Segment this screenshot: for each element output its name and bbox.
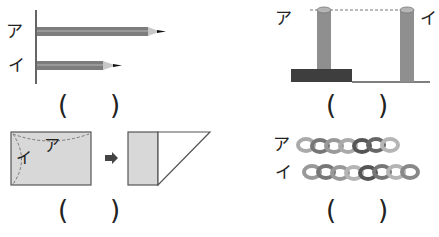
paper-answer-open: (	[58, 197, 68, 223]
pencil-label-a: ア	[6, 23, 23, 40]
paper-label-b: イ	[16, 149, 32, 166]
paper-label-a: ア	[44, 137, 60, 154]
pencil-answer-close: )	[110, 92, 120, 118]
folded-square	[128, 132, 158, 185]
ring-label-b: イ	[275, 164, 292, 181]
pole-b	[400, 7, 414, 82]
pole-a	[317, 7, 331, 69]
pencil-label-b: イ	[8, 57, 25, 74]
ring-answer-close: )	[378, 197, 388, 223]
paper-panel	[11, 132, 210, 185]
ring-panel	[298, 139, 418, 179]
ring-answer-box[interactable]	[338, 197, 376, 225]
pencil-a	[37, 27, 166, 36]
pole-answer-open: (	[326, 92, 336, 118]
ring-answer-open: (	[326, 197, 336, 223]
pencil-b	[37, 61, 122, 70]
pencil-answer-open: (	[58, 92, 68, 118]
pole-answer-box[interactable]	[338, 92, 376, 120]
paper-answer-close: )	[110, 197, 120, 223]
folded-triangle	[158, 132, 210, 185]
ring-chain-a	[298, 139, 398, 152]
pole-label-b: イ	[420, 10, 437, 27]
pencil-panel	[36, 10, 166, 84]
arrow-right-icon	[105, 152, 118, 164]
pole-answer-close: )	[378, 92, 388, 118]
block	[291, 69, 352, 82]
pole-panel	[291, 7, 430, 82]
pencil-answer-box[interactable]	[70, 92, 108, 120]
paper-answer-box[interactable]	[70, 197, 108, 225]
ring-label-a: ア	[273, 136, 290, 153]
ring-chain-b	[304, 166, 418, 179]
pole-label-a: ア	[275, 10, 292, 27]
